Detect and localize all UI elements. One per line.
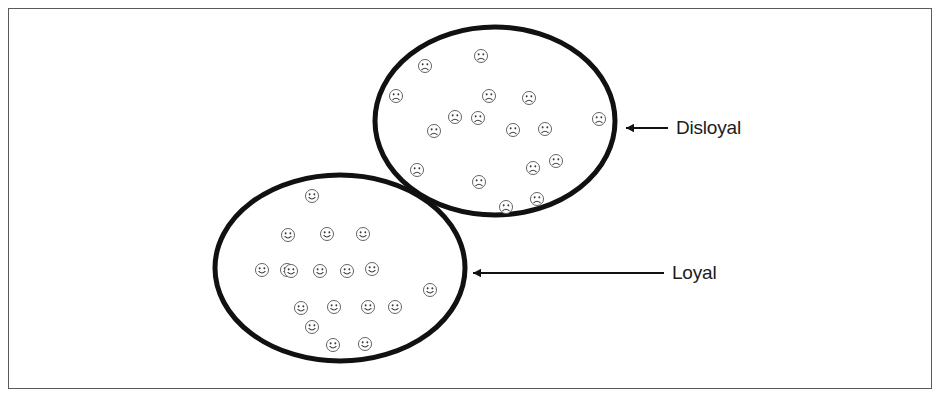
- label-loyal: Loyal: [672, 262, 716, 283]
- loyalty-clusters-diagram: DisloyalLoyal: [0, 0, 942, 399]
- frowning-face-4: [482, 89, 495, 102]
- frowning-face-12: [472, 175, 485, 188]
- frowning-face-13: [526, 161, 539, 174]
- frowning-face-11: [410, 163, 423, 176]
- label-disloyal: Disloyal: [676, 117, 741, 138]
- group-disloyal: Disloyal: [375, 27, 741, 215]
- frowning-face-9: [538, 122, 551, 135]
- smiling-face-14: [326, 338, 339, 351]
- smiling-face-7: [313, 264, 326, 277]
- smiling-face-9: [423, 283, 436, 296]
- smiling-face-2: [281, 228, 294, 241]
- group-loyal: Loyal: [215, 175, 716, 361]
- smiling-face-1: [305, 189, 318, 202]
- smiling-face-5: [255, 263, 268, 276]
- smiling-face-12: [361, 300, 374, 313]
- frowning-face-14: [530, 192, 543, 205]
- frowning-face-5: [522, 91, 535, 104]
- groups-layer: DisloyalLoyal: [215, 27, 741, 361]
- smiling-face-11: [327, 300, 340, 313]
- frowning-face-2: [474, 49, 487, 62]
- frowning-face-1: [418, 59, 431, 72]
- smiling-face-10: [294, 301, 307, 314]
- faces-disloyal: [389, 49, 605, 213]
- frowning-face-3: [389, 89, 402, 102]
- frowning-face-17: [549, 154, 562, 167]
- ellipse-loyal[interactable]: [215, 175, 465, 361]
- frowning-face-8: [506, 123, 519, 136]
- smiling-face-18: [284, 264, 297, 277]
- faces-loyal: [255, 189, 436, 351]
- frowning-face-6: [471, 111, 484, 124]
- smiling-face-17: [388, 300, 401, 313]
- smiling-face-13: [305, 320, 318, 333]
- frowning-face-15: [499, 200, 512, 213]
- frowning-face-7: [427, 124, 440, 137]
- smiling-face-15: [358, 337, 371, 350]
- ellipse-disloyal[interactable]: [375, 27, 615, 215]
- frowning-face-10: [592, 112, 605, 125]
- diagram-canvas: DisloyalLoyal: [0, 0, 942, 399]
- smiling-face-4: [356, 227, 369, 240]
- smiling-face-3: [320, 227, 333, 240]
- smiling-face-8: [365, 262, 378, 275]
- frowning-face-16: [448, 110, 461, 123]
- smiling-face-16: [340, 264, 353, 277]
